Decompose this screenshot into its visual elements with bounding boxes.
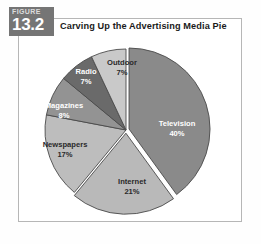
pie-value-newspapers: 17%	[57, 150, 72, 159]
pie-label-outdoor: Outdoor	[107, 58, 137, 67]
figure-title: Carving Up the Advertising Media Pie	[60, 21, 240, 32]
pie-value-television: 40%	[169, 129, 184, 138]
pie-chart: Television40%Internet21%Newspapers17%Mag…	[18, 38, 242, 222]
pie-value-internet: 21%	[124, 187, 139, 196]
pie-value-magazines: 8%	[59, 111, 70, 120]
pie-label-magazines: Magazines	[45, 101, 83, 110]
pie-label-newspapers: Newspapers	[43, 140, 88, 149]
figure-badge-number: 13.2	[12, 16, 54, 34]
pie-value-outdoor: 7%	[117, 68, 128, 77]
pie-label-television: Television	[159, 119, 196, 128]
pie-chart-svg: Television40%Internet21%Newspapers17%Mag…	[18, 38, 242, 222]
figure-container: FIGURE 13.2 Carving Up the Advertising M…	[0, 0, 261, 244]
pie-value-radio: 7%	[81, 77, 92, 86]
pie-label-internet: Internet	[118, 177, 146, 186]
pie-label-radio: Radio	[75, 67, 96, 76]
figure-number-badge: FIGURE 13.2	[9, 7, 54, 36]
